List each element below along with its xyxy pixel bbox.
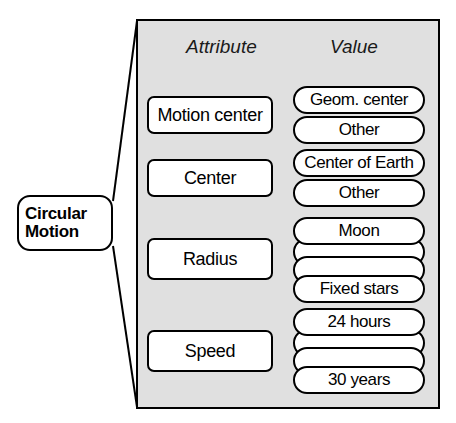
- value-label: Geom. center: [310, 90, 408, 110]
- attribute-box-motion-center[interactable]: Motion center: [147, 96, 273, 134]
- value-pill[interactable]: Moon: [293, 217, 425, 245]
- value-label: 24 hours: [328, 312, 391, 332]
- value-label: Fixed stars: [320, 279, 399, 299]
- value-pill[interactable]: Fixed stars: [293, 275, 425, 303]
- value-pill[interactable]: 30 years: [293, 366, 425, 394]
- attribute-box-center[interactable]: Center: [147, 159, 273, 197]
- column-header-value: Value: [330, 36, 378, 58]
- root-concept-label: Circular Motion: [25, 205, 87, 241]
- diagram-canvas: Circular Motion Attribute Value Motion c…: [0, 0, 456, 423]
- value-label: Center of Earth: [304, 153, 413, 173]
- value-pill[interactable]: Other: [293, 116, 425, 144]
- value-label: Other: [339, 120, 380, 140]
- value-pill[interactable]: Other: [293, 179, 425, 207]
- attribute-label: Radius: [183, 249, 237, 270]
- attribute-label: Speed: [185, 341, 236, 362]
- value-label: 30 years: [328, 370, 390, 390]
- value-label: Moon: [339, 221, 380, 241]
- value-pill[interactable]: 24 hours: [293, 308, 425, 336]
- attribute-box-radius[interactable]: Radius: [147, 238, 273, 280]
- attribute-box-speed[interactable]: Speed: [147, 330, 273, 372]
- attribute-label: Center: [184, 168, 236, 189]
- root-concept-node[interactable]: Circular Motion: [17, 195, 113, 251]
- value-label: Other: [339, 183, 380, 203]
- value-pill[interactable]: Geom. center: [293, 86, 425, 114]
- value-pill[interactable]: Center of Earth: [293, 149, 425, 177]
- attribute-label: Motion center: [157, 105, 262, 126]
- column-header-attribute: Attribute: [186, 36, 257, 58]
